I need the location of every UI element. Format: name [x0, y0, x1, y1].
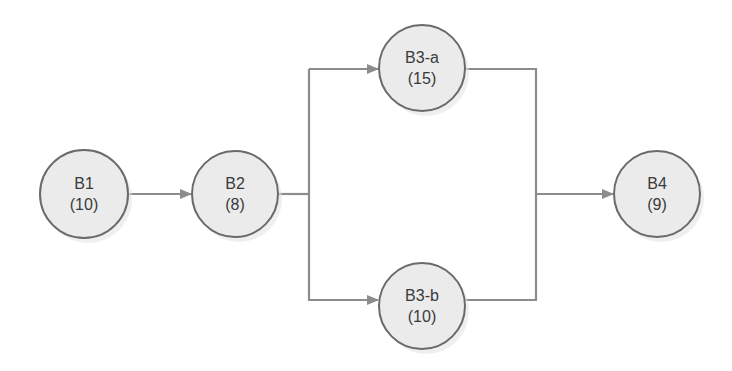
node-b1-value: (10)	[70, 196, 98, 213]
node-b1: B1 (10)	[40, 150, 132, 243]
node-b3a: B3-a (15)	[379, 25, 469, 116]
node-b4-circle	[614, 151, 700, 237]
node-b3a-circle	[379, 25, 465, 111]
node-b2-value: (8)	[225, 196, 245, 213]
node-b3b-name: B3-b	[405, 287, 439, 304]
node-b4-name: B4	[647, 175, 667, 192]
node-b1-name: B1	[74, 175, 94, 192]
node-b4: B4 (9)	[614, 151, 704, 242]
flow-diagram: B1 (10) B2 (8) B3-a (15) B3-b (10) B4 (9…	[0, 0, 732, 371]
node-b3a-name: B3-a	[405, 49, 439, 66]
node-b3b-value: (10)	[408, 308, 436, 325]
node-b3b-circle	[379, 263, 465, 349]
node-b4-value: (9)	[647, 196, 667, 213]
node-b3a-value: (15)	[408, 70, 436, 87]
edge-b3b-merge	[465, 194, 536, 300]
edge-b3a-merge	[465, 69, 536, 194]
node-b3b: B3-b (10)	[379, 263, 469, 354]
node-b2: B2 (8)	[192, 151, 282, 242]
node-b1-circle	[40, 150, 128, 238]
node-b2-name: B2	[225, 175, 245, 192]
node-b2-circle	[192, 151, 278, 237]
